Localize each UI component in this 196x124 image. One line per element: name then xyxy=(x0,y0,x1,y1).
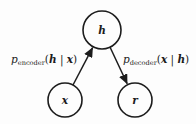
decoder-subscript: decoder xyxy=(130,59,158,67)
decoder-close-paren: ) xyxy=(185,53,189,65)
node-r-label: r xyxy=(132,94,139,106)
decoder-var2: h xyxy=(177,53,185,65)
encoder-bar: | xyxy=(57,53,67,67)
decoder-probability-label: pdecoder(x | h) xyxy=(123,53,189,67)
decoder-bar: | xyxy=(167,53,177,67)
encoder-close-paren: ) xyxy=(73,53,77,65)
autoencoder-diagram: h x r pencoder(h | x) pdecoder(x | h) xyxy=(0,0,196,124)
diagram-canvas: h x r pencoder(h | x) pdecoder(x | h) xyxy=(0,0,196,124)
encoder-var1: h xyxy=(49,53,57,65)
encoder-probability-label: pencoder(h | x) xyxy=(11,53,77,67)
node-h-label: h xyxy=(98,24,106,36)
encoder-subscript: encoder xyxy=(18,59,46,67)
node-x-label: x xyxy=(61,94,69,106)
